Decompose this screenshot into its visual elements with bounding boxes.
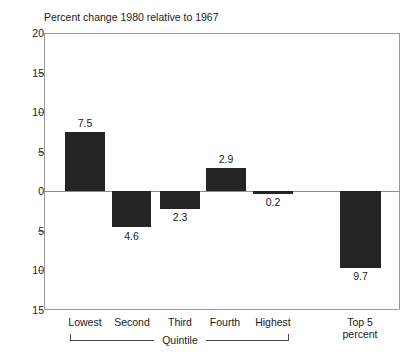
bar-value-label: 4.6: [100, 231, 163, 242]
quintile-bracket-line-left: [70, 340, 154, 341]
x-tick-label-top5-line1: Top 5: [332, 316, 388, 328]
bar: [112, 191, 151, 227]
bar: [340, 191, 381, 268]
bar-value-label: 7.5: [53, 118, 117, 129]
bar: [206, 168, 246, 191]
bars-layer: 7.54.62.32.90.29.7: [0, 0, 420, 364]
bar-value-label: 2.3: [148, 212, 212, 223]
bar: [160, 191, 200, 209]
x-tick-label-highest: Highest: [244, 316, 302, 328]
bar-value-label: 9.7: [328, 271, 393, 282]
bar-value-label: 2.9: [194, 154, 258, 165]
quintile-group-label: Quintile: [152, 334, 208, 346]
bar-chart: Percent change 1980 relative to 1967 201…: [0, 0, 420, 364]
bar: [65, 132, 105, 191]
bar-value-label: 0.2: [241, 197, 305, 208]
quintile-bracket-line-right: [206, 340, 289, 341]
x-tick-label-top5-line2: percent: [332, 328, 388, 340]
bar: [253, 191, 293, 194]
